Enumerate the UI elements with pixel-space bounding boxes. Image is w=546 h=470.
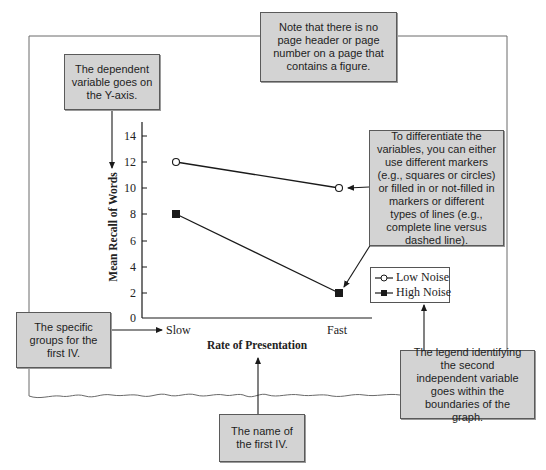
series-high-noise — [172, 210, 343, 297]
y-tick-14: 14 — [124, 129, 136, 143]
callout-markers-text: To differentiate the variables, you can … — [376, 130, 497, 247]
callout-page-note-text: Note that there is no page header or pag… — [271, 21, 386, 73]
y-tick-4: 4 — [130, 260, 136, 274]
y-tick-0: 0 — [130, 311, 136, 325]
low-noise-marker-arrow — [348, 187, 369, 188]
callout-specific-groups: The specific groups for the first IV. — [16, 312, 111, 368]
chart-axes — [142, 122, 372, 318]
open-circle-line-icon — [375, 273, 393, 283]
callout-dependent-variable: The dependent variable goes on the Y-axi… — [64, 54, 160, 110]
callout-iv-name: The name of the first IV. — [219, 414, 305, 462]
legend-item-low-noise: Low Noise — [375, 270, 445, 285]
y-tick-2: 2 — [130, 286, 136, 300]
figure-canvas: 0 2 4 6 8 10 12 14 Slow Fast Rate of Pre… — [0, 0, 546, 470]
x-axis-title: Rate of Presentation — [207, 339, 308, 351]
callout-legend-note-text: The legend identifying the second indepe… — [409, 346, 526, 424]
callout-page-note: Note that there is no page header or pag… — [260, 12, 397, 82]
low-noise-point-fast — [336, 185, 343, 192]
y-axis-title: Mean Recall of Words — [107, 172, 119, 282]
y-tick-6: 6 — [130, 234, 136, 248]
low-noise-point-slow — [173, 159, 180, 166]
legend-item-high-noise: High Noise — [375, 285, 445, 300]
high-noise-point-slow — [172, 210, 180, 218]
legend-label-low-noise: Low Noise — [396, 270, 449, 285]
y-tick-labels: 0 2 4 6 8 10 12 14 — [124, 129, 136, 325]
high-noise-point-fast — [335, 289, 343, 297]
y-ticks — [142, 136, 147, 293]
callout-markers: To differentiate the variables, you can … — [369, 130, 504, 246]
chart-legend: Low Noise High Noise — [370, 267, 450, 303]
callout-specific-groups-text: The specific groups for the first IV. — [27, 321, 100, 360]
filled-square-line-icon — [375, 288, 393, 298]
y-tick-12: 12 — [124, 155, 136, 169]
series-low-noise — [173, 159, 343, 192]
legend-label-high-noise: High Noise — [396, 285, 451, 300]
y-tick-10: 10 — [124, 181, 136, 195]
high-noise-marker-arrow — [344, 244, 371, 287]
y-tick-8: 8 — [130, 207, 136, 221]
callout-legend-note: The legend identifying the second indepe… — [400, 350, 535, 419]
callout-dependent-variable-text: The dependent variable goes on the Y-axi… — [71, 63, 153, 102]
callout-iv-name-text: The name of the first IV. — [228, 425, 296, 451]
x-tick-slow: Slow — [166, 323, 191, 337]
x-tick-fast: Fast — [327, 323, 348, 337]
